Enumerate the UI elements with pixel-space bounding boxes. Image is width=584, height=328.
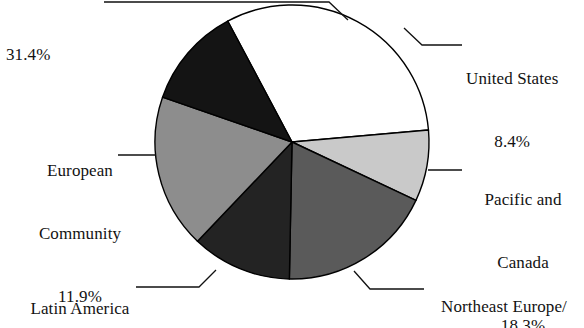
- leader-line-united-states: [404, 28, 462, 45]
- slice-label-united-states-line1: United States: [466, 68, 558, 89]
- slice-label-european-community-line2: Community: [4, 223, 156, 244]
- slice-label-northeast: Northeast Europe/ Middle East 11.8%: [424, 254, 584, 328]
- pie-chart-figure: 31.4% United States 8.4% Pacific and Can…: [0, 0, 584, 328]
- slice-label-pacific-line1: Pacific and: [466, 189, 580, 210]
- slice-label-northeast-line1: Northeast Europe/: [424, 296, 584, 317]
- slice-label-top-line1: 31.4%: [6, 44, 50, 65]
- pie-slice-group: [155, 5, 429, 279]
- slice-label-european-community: European Community 11.9%: [4, 118, 156, 328]
- slice-label-top: 31.4%: [6, 2, 50, 107]
- slice-label-european-community-value: 11.9%: [4, 286, 156, 307]
- slice-label-european-community-line1: European: [4, 160, 156, 181]
- leader-line-northeast: [354, 271, 424, 289]
